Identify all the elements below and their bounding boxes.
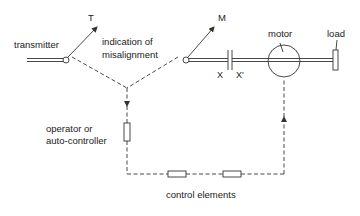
motor bbox=[268, 45, 300, 77]
transmitter-pivot bbox=[63, 57, 69, 63]
pointer-m-label: M bbox=[218, 12, 226, 23]
coupling-label-x: X bbox=[217, 70, 223, 80]
misalignment-label-line1: indication of bbox=[102, 36, 153, 47]
operator-element bbox=[124, 123, 130, 141]
motor-leader bbox=[280, 43, 283, 52]
transmitter-shaft bbox=[27, 59, 63, 62]
control-elements-label: control elements bbox=[166, 189, 236, 200]
control-loop-diagram: T transmitter indication of misalignment… bbox=[0, 0, 360, 216]
motor-pivot bbox=[183, 57, 189, 63]
pointer-t-arrow bbox=[68, 27, 97, 57]
motor-shaft bbox=[189, 59, 333, 62]
motor-label: motor bbox=[268, 28, 292, 39]
misalignment-label-line2: misalignment bbox=[102, 49, 158, 60]
pointer-t-label: T bbox=[88, 12, 94, 23]
operator-label-line2: auto-controller bbox=[46, 135, 107, 146]
control-element-1 bbox=[168, 171, 186, 177]
coupling-label-x-prime: X' bbox=[236, 70, 244, 80]
pointer-m-arrow bbox=[188, 27, 214, 57]
coupling bbox=[228, 50, 232, 70]
operator-label-line1: operator or bbox=[46, 123, 92, 134]
control-element-2 bbox=[223, 171, 241, 177]
load-label: load bbox=[327, 28, 345, 39]
load-leader bbox=[336, 40, 337, 50]
transmitter-label: transmitter bbox=[14, 39, 59, 50]
load bbox=[333, 50, 338, 70]
dashed-link-transmitter bbox=[72, 57, 127, 88]
dashed-link-motor bbox=[127, 57, 178, 88]
